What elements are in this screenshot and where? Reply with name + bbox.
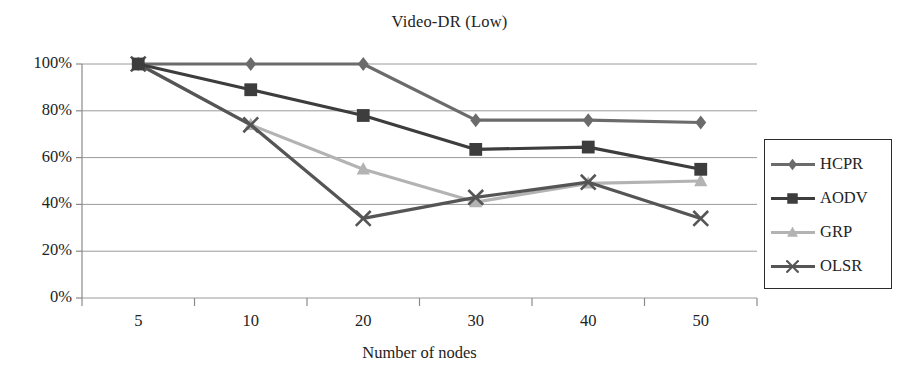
legend-label: HCPR [820,154,863,174]
marker-square [357,109,370,122]
legend-marker-diamond-icon [786,158,799,171]
chart-figure: Video-DR (Low) Number of nodes 0%20%40%6… [0,0,913,388]
marker-diamond [583,113,594,127]
x-axis-tick-label: 5 [98,313,178,330]
marker-diamond [358,57,369,71]
marker-triangle [787,227,798,237]
legend-label: GRP [820,222,852,242]
marker-diamond [245,57,256,71]
marker-square [582,141,595,154]
legend-item-aodv[interactable]: AODV [765,183,893,213]
x-axis-label: Number of nodes [82,343,757,363]
legend-swatch-olsr [770,255,816,277]
y-axis-tick-label: 40% [0,195,72,212]
y-axis-tick-label: 100% [0,55,72,72]
legend-swatch-hcpr [770,153,816,175]
marker-square [787,193,797,203]
legend-item-hcpr[interactable]: HCPR [765,149,893,179]
legend-marker-x-icon [786,260,799,273]
marker-diamond [788,159,797,170]
legend-marker-square-icon [786,192,799,205]
series-line [138,64,701,123]
x-axis-tick-label: 20 [323,313,403,330]
series-line [138,64,701,169]
legend-marker-triangle-icon [786,226,799,239]
marker-square [469,143,482,156]
marker-square [244,83,257,96]
legend-label: AODV [820,188,868,208]
y-axis-tick-label: 80% [0,102,72,119]
y-axis-tick-label: 60% [0,149,72,166]
legend-swatch-aodv [770,187,816,209]
series-line [138,64,701,218]
legend-swatch-grp [770,221,816,243]
marker-diamond [470,113,481,127]
legend-item-olsr[interactable]: OLSR [765,251,893,281]
marker-square [694,163,707,176]
y-axis-tick-label: 0% [0,289,72,306]
y-axis-tick-label: 20% [0,242,72,259]
x-axis-tick-label: 30 [436,313,516,330]
x-axis-tick-label: 50 [661,313,741,330]
chart-legend: HCPRAODVGRPOLSR [764,139,892,289]
x-axis-tick-label: 10 [211,313,291,330]
marker-diamond [695,116,706,130]
legend-label: OLSR [820,256,862,276]
marker-square [132,58,145,71]
series-hcpr [133,57,706,130]
legend-item-grp[interactable]: GRP [765,217,893,247]
x-axis-tick-label: 40 [548,313,628,330]
